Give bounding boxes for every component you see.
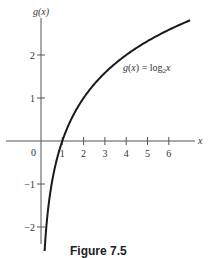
x-ticks: 123456 [60,137,172,159]
y-tick-label: −1 [24,179,35,190]
y-tick-label: −2 [24,222,35,233]
y-tick-label: 2 [30,50,35,61]
y-axis-label: g(x) [33,6,50,18]
x-axis-label: x [197,135,203,146]
x-tick-label: 6 [166,148,171,159]
figure-caption: Figure 7.5 [70,244,127,258]
x-tick-label: 2 [81,148,86,159]
x-tick-label: 5 [145,148,150,159]
log2-curve [44,20,190,251]
function-label: g(x) = log2x [123,62,171,75]
x-tick-label: 3 [102,148,107,159]
y-tick-label: 1 [30,93,35,104]
x-tick-label: 4 [124,148,129,159]
origin-label: 0 [31,147,36,158]
